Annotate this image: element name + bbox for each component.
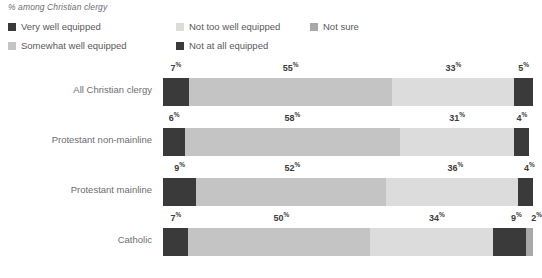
chart-row: Protestant non-mainline6%58%31%4% xyxy=(0,112,538,158)
bar-segment[interactable] xyxy=(400,128,515,156)
bar-segment[interactable] xyxy=(514,128,529,156)
stacked-bar xyxy=(163,78,533,106)
bar-segment[interactable] xyxy=(185,128,400,156)
bar-value-label: 2% xyxy=(531,213,542,223)
legend-item-label: Not at all equipped xyxy=(189,41,268,51)
bar-segment[interactable] xyxy=(493,228,526,256)
legend-item[interactable]: Somewhat well equipped xyxy=(8,41,127,51)
legend-swatch-icon xyxy=(8,42,16,50)
chart-plot-area: All Christian clergy7%55%33%5%Protestant… xyxy=(0,62,538,278)
bar-value-label: 6% xyxy=(169,113,180,123)
legend-item[interactable]: Not too well equipped xyxy=(176,22,280,32)
bar-segment[interactable] xyxy=(514,78,533,106)
chart-row-label: Protestant non-mainline xyxy=(0,134,152,146)
bar-segment[interactable] xyxy=(526,228,533,256)
chart-legend: Very well equippedSomewhat well equipped… xyxy=(8,22,528,60)
bar-value-label: 7% xyxy=(171,63,182,73)
chart-row-label: Protestant mainline xyxy=(0,184,152,196)
value-label-layer: 6%58%31%4% xyxy=(163,112,533,128)
bar-value-label: 9% xyxy=(511,213,522,223)
legend-item[interactable]: Not sure xyxy=(310,22,359,32)
chart-row: Catholic7%50%34%9%2% xyxy=(0,212,538,258)
bar-segment[interactable] xyxy=(196,178,387,206)
chart-row: Protestant mainline9%52%36%4% xyxy=(0,162,538,208)
chart-row-label: Catholic xyxy=(0,234,152,246)
bar-segment[interactable] xyxy=(188,228,369,256)
bar-value-label: 55% xyxy=(283,63,299,73)
legend-swatch-icon xyxy=(176,42,184,50)
legend-item-label: Very well equipped xyxy=(21,22,101,32)
bar-segment[interactable] xyxy=(163,128,185,156)
bar-value-label: 31% xyxy=(449,113,465,123)
bar-value-label: 58% xyxy=(285,113,301,123)
bar-segment[interactable] xyxy=(386,178,518,206)
bar-segment[interactable] xyxy=(370,228,493,256)
bar-segment[interactable] xyxy=(392,78,514,106)
stacked-bar xyxy=(163,178,533,206)
bar-value-label: 4% xyxy=(524,163,535,173)
bar-segment[interactable] xyxy=(163,228,188,256)
bar-segment[interactable] xyxy=(163,178,196,206)
legend-item[interactable]: Very well equipped xyxy=(8,22,101,32)
legend-swatch-icon xyxy=(8,23,16,31)
bar-value-label: 50% xyxy=(273,213,289,223)
stacked-bar xyxy=(163,128,533,156)
legend-item-label: Somewhat well equipped xyxy=(21,41,127,51)
chart-row-label: All Christian clergy xyxy=(0,84,152,96)
stacked-bar xyxy=(163,228,533,256)
legend-item-label: Not too well equipped xyxy=(189,22,280,32)
chart-subtitle: % among Christian clergy xyxy=(8,2,107,12)
bar-value-label: 34% xyxy=(429,213,445,223)
bar-value-label: 7% xyxy=(171,213,182,223)
legend-item[interactable]: Not at all equipped xyxy=(176,41,268,51)
value-label-layer: 7%50%34%9%2% xyxy=(163,212,533,228)
bar-segment[interactable] xyxy=(163,78,189,106)
bar-value-label: 9% xyxy=(174,163,185,173)
bar-value-label: 36% xyxy=(447,163,463,173)
bar-value-label: 4% xyxy=(516,113,527,123)
bar-segment[interactable] xyxy=(189,78,393,106)
legend-swatch-icon xyxy=(176,23,184,31)
chart-row: All Christian clergy7%55%33%5% xyxy=(0,62,538,108)
bar-value-label: 33% xyxy=(446,63,462,73)
bar-value-label: 52% xyxy=(285,163,301,173)
bar-value-label: 5% xyxy=(518,63,529,73)
value-label-layer: 7%55%33%5% xyxy=(163,62,533,78)
legend-swatch-icon xyxy=(310,23,318,31)
value-label-layer: 9%52%36%4% xyxy=(163,162,533,178)
legend-item-label: Not sure xyxy=(323,22,359,32)
bar-segment[interactable] xyxy=(518,178,533,206)
